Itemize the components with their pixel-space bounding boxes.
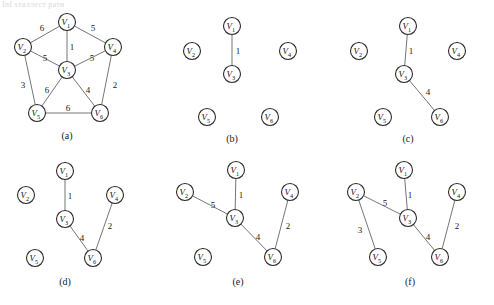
edge-weight-d-V3-V6: 4 — [80, 233, 85, 243]
edge-weight-a-V2-V3: 5 — [43, 53, 48, 63]
edge-weight-a-V5-V6: 6 — [66, 103, 71, 113]
graph-edge-e-V3-V6 — [241, 224, 267, 251]
edge-weight-e-V2-V3: 5 — [211, 200, 216, 210]
edge-weight-c-V1-V3: 1 — [409, 46, 414, 56]
edge-weight-a-V3-V4: 5 — [90, 53, 95, 63]
edge-weight-e-V3-V6: 4 — [256, 232, 261, 242]
graph-edge-a-V4-V6 — [102, 55, 112, 104]
graph-panel-d: 142V1V2V3V4V5V6 — [18, 163, 124, 267]
panel-caption-d: (d) — [35, 276, 95, 287]
graph-panel-f: 15342V1V2V3V4V5V6 — [348, 162, 466, 266]
graph-edge-c-V1-V3 — [405, 34, 408, 65]
panel-caption-c: (c) — [378, 133, 438, 144]
panel-caption-e: (e) — [208, 276, 268, 287]
edge-weight-d-V1-V3: 1 — [68, 191, 73, 201]
graph-panel-a: 6155356426V1V2V3V4V5V6 — [15, 14, 122, 122]
edge-weight-f-V2-V5: 3 — [358, 225, 363, 235]
edge-weight-a-V1-V4: 5 — [91, 23, 96, 33]
panel-caption-b: (b) — [202, 133, 262, 144]
edge-weight-a-V1-V3: 1 — [70, 42, 75, 52]
mst-figure-root: Inf ѕталлест ратн 6155356426V1V2V3V4V5V6… — [0, 0, 494, 305]
graph-edge-f-V3-V6 — [413, 225, 434, 251]
edge-weight-a-V3-V5: 6 — [45, 85, 50, 95]
graph-edge-a-V2-V5 — [25, 55, 35, 104]
edge-weight-d-V4-V6: 2 — [108, 221, 113, 231]
graph-edge-a-V1-V2 — [30, 26, 59, 43]
edge-weight-b-V1-V3: 1 — [236, 46, 241, 56]
edge-weight-a-V1-V2: 6 — [40, 23, 45, 33]
edge-weight-f-V4-V6: 2 — [455, 221, 460, 231]
edge-weight-c-V3-V6: 4 — [426, 87, 431, 97]
graph-panel-e: 1542V1V2V3V4V5V6 — [177, 162, 299, 266]
graph-canvas: 6155356426V1V2V3V4V5V61V1V2V3V4V5V614V1V… — [0, 0, 494, 305]
edge-weight-f-V2-V3: 5 — [383, 198, 388, 208]
graph-panel-c: 14V1V2V3V4V5V6 — [351, 18, 466, 126]
panel-caption-f: (f) — [380, 276, 440, 287]
panel-caption-a: (a) — [37, 130, 97, 141]
edge-weight-a-V2-V5: 3 — [21, 80, 26, 90]
edge-weight-f-V3-V6: 4 — [426, 232, 431, 242]
edge-weight-a-V3-V6: 4 — [86, 85, 91, 95]
edge-weight-e-V1-V3: 1 — [239, 190, 244, 200]
graph-panel-b: 1V1V2V3V4V5V6 — [184, 18, 297, 126]
graph-edge-e-V1-V3 — [235, 178, 236, 209]
graph-edge-a-V3-V6 — [72, 77, 95, 107]
edge-weight-a-V4-V6: 2 — [113, 80, 118, 90]
graph-edge-c-V3-V6 — [409, 81, 434, 111]
graph-edge-f-V4-V6 — [442, 200, 455, 249]
edge-weight-f-V1-V3: 1 — [408, 190, 413, 200]
edge-weight-e-V4-V6: 2 — [286, 221, 291, 231]
